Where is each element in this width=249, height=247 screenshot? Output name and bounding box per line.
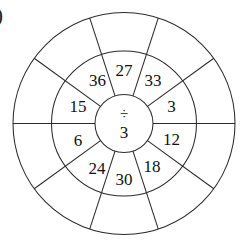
cell-label-27: 27	[116, 61, 134, 80]
cell-label-6: 6	[74, 131, 83, 150]
division-wheel-figure: ) 27 33 3 12 18 30 24 6 15 36 ÷	[0, 0, 249, 247]
cell-label-30: 30	[116, 170, 133, 189]
division-sign-icon: ÷	[120, 106, 128, 122]
cell-label-24: 24	[89, 159, 107, 178]
center-divisor-label: 3	[120, 123, 129, 142]
question-label-marker: )	[0, 5, 3, 26]
cell-label-33: 33	[145, 71, 162, 90]
cell-label-3: 3	[167, 97, 176, 116]
cell-label-36: 36	[89, 71, 106, 90]
wheel-diagram-svg: 27 33 3 12 18 30 24 6 15 36 ÷ 3	[0, 0, 249, 247]
cell-label-12: 12	[163, 130, 180, 149]
cell-label-15: 15	[70, 97, 87, 116]
cell-label-18: 18	[144, 157, 161, 176]
